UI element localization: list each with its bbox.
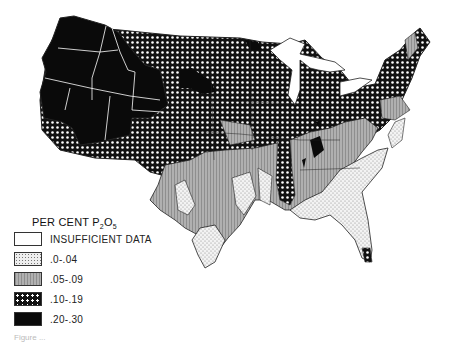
legend-item-05-09: .05-.09	[14, 269, 174, 289]
swatch-black	[14, 312, 42, 326]
legend-item-10-19: .10-.19	[14, 289, 174, 309]
swatch-blank	[14, 232, 42, 246]
figure-caption: Figure ...	[14, 333, 46, 342]
swatch-checker	[14, 292, 42, 306]
legend-item-insufficient-data: INSUFFICIENT DATA	[14, 229, 174, 249]
legend-item-20-30: .20-.30	[14, 309, 174, 329]
swatch-stipple	[14, 252, 42, 266]
swatch-gray	[14, 272, 42, 286]
legend-title: PER CENT P2O5	[32, 216, 174, 229]
legend: PER CENT P2O5 INSUFFICIENT DATA .0-.04 .…	[14, 216, 174, 329]
legend-item-0-04: .0-.04	[14, 249, 174, 269]
